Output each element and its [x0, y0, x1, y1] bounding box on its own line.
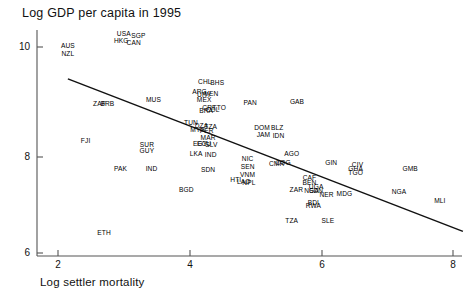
data-point-label: BGD: [179, 187, 194, 194]
data-point-label: MUS: [146, 96, 161, 103]
data-point-label: ZAR: [290, 187, 304, 194]
y-axis: [37, 30, 43, 256]
data-point-label: JAM: [257, 131, 271, 138]
x-tick-4: 4: [182, 259, 198, 270]
regression-fit-line: [68, 79, 463, 232]
data-point-label: SLE: [322, 218, 335, 225]
data-point-label: GAB: [290, 98, 304, 105]
data-point-label: PAN: [244, 99, 257, 106]
data-point-label: NPL: [242, 180, 255, 187]
data-point-label: NGA: [392, 189, 407, 196]
data-point-label: IDN: [273, 133, 285, 140]
data-point-label: AGO: [284, 151, 299, 158]
data-point-label: PAK: [114, 165, 127, 172]
data-point-label: SEN: [241, 163, 255, 170]
x-tick-2: 2: [50, 259, 66, 270]
scatter-plot-figure: Log GDP per capita in 1995 10 8 6 2 4 6 …: [0, 0, 469, 301]
y-tick-8: 8: [14, 151, 30, 162]
data-point-label: EGY: [193, 141, 207, 148]
data-point-label: GMB: [403, 166, 418, 173]
data-point-label: NER: [319, 192, 333, 199]
x-axis-label: Log settler mortality: [40, 276, 145, 288]
data-point-label: LKA: [190, 151, 203, 158]
data-point-label: GIN: [325, 160, 337, 167]
data-point-label: MDG: [337, 191, 353, 198]
x-axis: [37, 250, 462, 256]
data-point-label: BHS: [210, 79, 224, 86]
data-point-label: NZL: [62, 50, 75, 57]
y-tick-6: 6: [14, 247, 30, 258]
data-point-label: COG: [275, 160, 290, 167]
data-point-label: GUY: [140, 148, 155, 155]
data-point-label: ETH: [97, 230, 111, 237]
y-tick-10: 10: [14, 41, 30, 52]
data-point-label: BRB: [100, 101, 114, 108]
x-tick-6: 6: [314, 259, 330, 270]
data-point-label: SDN: [201, 166, 215, 173]
data-point-label: COL: [206, 107, 220, 114]
data-point-label: IND: [205, 152, 217, 159]
data-point-label: MLI: [434, 197, 445, 204]
data-point-label: MEX: [197, 96, 212, 103]
data-point-label: TGO: [348, 169, 363, 176]
data-point-label: CAN: [127, 40, 141, 47]
data-point-label: FJI: [81, 137, 90, 144]
data-point-label: RWA: [306, 202, 321, 209]
data-point-label: BLZ: [271, 125, 283, 132]
data-point-label: TZA: [285, 218, 298, 225]
data-point-label: AUS: [61, 43, 75, 50]
data-point-label: IND: [146, 166, 158, 173]
x-tick-8: 8: [445, 259, 461, 270]
